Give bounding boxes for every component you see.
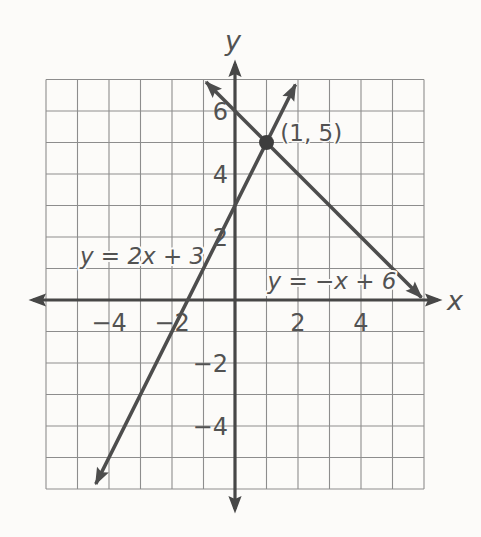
x-tick-label: 2 bbox=[290, 309, 305, 337]
scanned-graph-page: −4−224642−2−4xyy = 2x + 3y = −x + 6(1, 5… bbox=[0, 0, 481, 537]
y-tick-label: 6 bbox=[213, 98, 228, 126]
y-axis-label: y bbox=[224, 25, 242, 56]
x-tick-label: −2 bbox=[154, 309, 189, 337]
y-tick-label: −2 bbox=[193, 350, 228, 378]
point-label: (1, 5) bbox=[280, 120, 342, 146]
equation-label-2: y = −x + 6 bbox=[267, 268, 397, 294]
equation-label-1: y = 2x + 3 bbox=[79, 243, 204, 269]
x-tick-label: 4 bbox=[353, 309, 368, 337]
x-tick-label: −4 bbox=[91, 309, 126, 337]
y-tick-label: −4 bbox=[193, 413, 228, 441]
y-tick-label: 2 bbox=[213, 224, 228, 252]
y-tick-label: 4 bbox=[213, 161, 228, 189]
linear-system-graph: −4−224642−2−4xyy = 2x + 3y = −x + 6(1, 5… bbox=[0, 0, 481, 537]
intersection-point bbox=[259, 135, 274, 150]
x-axis-label: x bbox=[446, 285, 464, 316]
